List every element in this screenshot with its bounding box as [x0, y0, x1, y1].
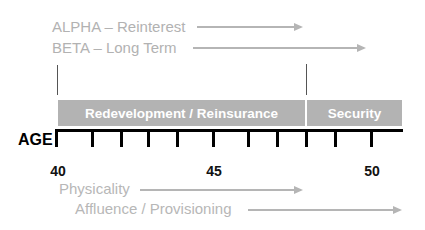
axis-tick: [120, 129, 123, 147]
axis-tick: [147, 129, 150, 147]
axis-tick: [91, 129, 94, 147]
tick-label-50: 50: [364, 163, 380, 179]
alpha-label: ALPHA – Reinterest: [52, 19, 185, 34]
axis-tick: [276, 129, 279, 147]
alpha-arrow-icon: [197, 26, 301, 28]
axis-tick: [247, 129, 250, 147]
beta-arrow-icon: [193, 47, 364, 49]
affluence-arrow-icon: [248, 209, 400, 211]
affluence-label: Affluence / Provisioning: [75, 201, 231, 216]
axis-tick: [305, 129, 308, 147]
segment-redevelopment-label: Redevelopment / Reinsurance: [85, 106, 278, 121]
tick-label-40: 40: [50, 163, 66, 179]
start-marker-line: [57, 65, 58, 95]
segment-security-label: Security: [328, 106, 381, 121]
axis-title: AGE: [18, 131, 53, 149]
physicality-label: Physicality: [59, 181, 130, 196]
transition-marker-line: [306, 64, 307, 95]
axis-tick: [55, 129, 58, 147]
axis-tick: [334, 129, 337, 147]
axis-tick: [370, 129, 373, 147]
tick-label-45: 45: [206, 163, 222, 179]
segment-security: Security: [307, 100, 402, 126]
segment-redevelopment: Redevelopment / Reinsurance: [58, 100, 305, 126]
axis-tick: [176, 129, 179, 147]
beta-label: BETA – Long Term: [52, 40, 177, 55]
axis-tick: [212, 129, 215, 147]
age-axis-line: [55, 129, 403, 132]
physicality-arrow-icon: [140, 189, 301, 191]
